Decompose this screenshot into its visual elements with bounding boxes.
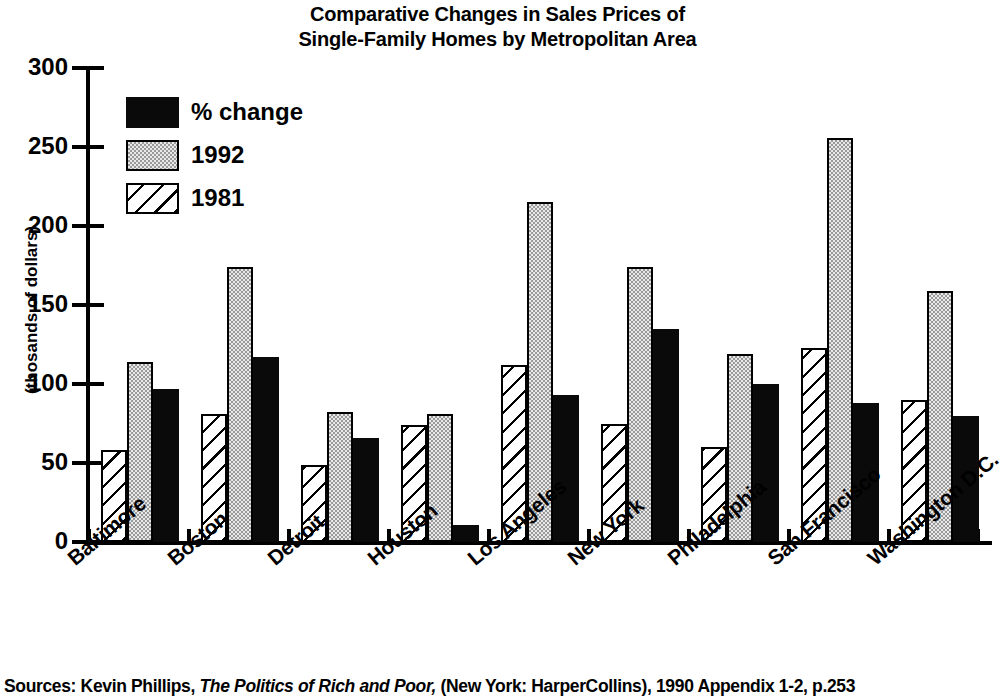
bar-change[interactable] bbox=[353, 438, 379, 542]
y-axis-tick-label: 300 bbox=[6, 55, 68, 79]
bar-change[interactable] bbox=[153, 389, 179, 542]
legend-label: 1981 bbox=[191, 186, 244, 210]
legend-item-s1992[interactable]: 1992 bbox=[126, 135, 356, 175]
source-title: The Politics of Rich and Poor, bbox=[199, 676, 435, 696]
legend-item-change[interactable]: % change bbox=[126, 92, 356, 132]
legend-label: % change bbox=[191, 100, 303, 124]
chart-legend: % change19921981 bbox=[126, 92, 356, 221]
y-axis-tick-labels: 050100150200250300 bbox=[0, 0, 68, 700]
legend-item-s1981[interactable]: 1981 bbox=[126, 178, 356, 218]
bar-change[interactable] bbox=[253, 357, 279, 542]
bar-s1992[interactable] bbox=[227, 267, 253, 542]
y-axis-tick-label: 200 bbox=[6, 213, 68, 237]
y-axis-tick-label: 50 bbox=[6, 450, 68, 474]
legend-swatch-s1981 bbox=[126, 183, 179, 214]
bar-s1992[interactable] bbox=[327, 412, 353, 542]
y-axis-tick bbox=[72, 461, 104, 465]
bar-change[interactable] bbox=[753, 384, 779, 542]
source-suffix: (New York: HarperCollins), 1990 Appendix… bbox=[440, 676, 855, 696]
y-axis-tick bbox=[72, 303, 104, 307]
bar-group bbox=[601, 62, 679, 542]
legend-swatch-s1992 bbox=[126, 140, 179, 171]
y-axis-tick-label: 0 bbox=[6, 529, 68, 553]
bar-group bbox=[501, 62, 579, 542]
y-axis-tick-label: 150 bbox=[6, 292, 68, 316]
y-axis-tick bbox=[72, 145, 104, 149]
source-caption: Sources: Kevin Phillips, The Politics of… bbox=[4, 676, 994, 696]
bar-change[interactable] bbox=[653, 329, 679, 542]
y-axis-tick bbox=[72, 382, 104, 386]
y-axis-tick-label: 250 bbox=[6, 134, 68, 158]
y-axis-tick-label: 100 bbox=[6, 371, 68, 395]
legend-label: 1992 bbox=[191, 143, 244, 167]
bar-change[interactable] bbox=[553, 395, 579, 542]
bar-group bbox=[401, 62, 479, 542]
bar-group bbox=[701, 62, 779, 542]
y-axis-tick bbox=[72, 66, 104, 70]
source-prefix: Sources: Kevin Phillips, bbox=[4, 676, 195, 696]
legend-swatch-change bbox=[126, 97, 179, 128]
y-axis-tick bbox=[72, 224, 104, 228]
bar-change[interactable] bbox=[453, 525, 479, 542]
